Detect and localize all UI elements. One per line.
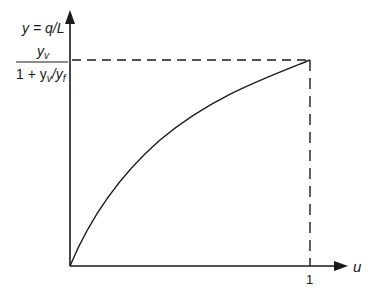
y-axis-arrow-icon <box>65 10 75 24</box>
y-axis-label: y = q/L <box>21 20 64 36</box>
x-tick-label: 1 <box>306 272 313 287</box>
x-axis-arrow-icon <box>334 261 348 271</box>
x-axis-label: u <box>353 258 362 275</box>
curve <box>70 60 310 266</box>
y-level-numerator: yv <box>36 43 50 61</box>
diagram: y = q/L yv 1 + yv/yf 1 u <box>0 0 374 294</box>
y-level-denominator: 1 + yv/yf <box>16 66 67 84</box>
